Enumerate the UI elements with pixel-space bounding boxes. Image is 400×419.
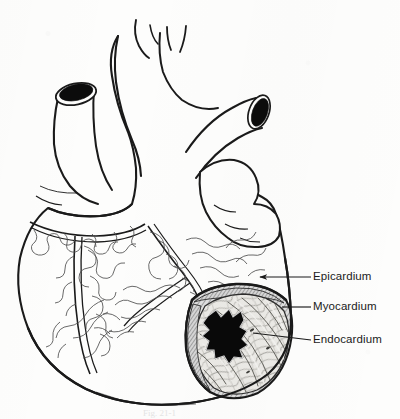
- superior-vena-cava-medial: [93, 88, 112, 190]
- right-atrium-crease: [36, 196, 62, 205]
- superior-vena-cava: [54, 98, 98, 204]
- heart-diagram-svg: [0, 0, 400, 419]
- label-epicardium: Epicardium: [313, 271, 372, 283]
- label-myocardium: Myocardium: [313, 301, 377, 313]
- heart-anatomy-figure: Epicardium Myocardium Endocardium Fig. 2…: [0, 0, 400, 419]
- brachiocephalic-branch: [135, 20, 149, 58]
- label-endocardium: Endocardium: [313, 334, 382, 346]
- branch-notch-left: [150, 25, 158, 44]
- cut-away-window-group: [186, 284, 293, 398]
- figure-caption: Fig. 21-1: [143, 408, 176, 418]
- left-subclavian-branch: [180, 26, 186, 52]
- left-carotid-branch: [167, 27, 171, 50]
